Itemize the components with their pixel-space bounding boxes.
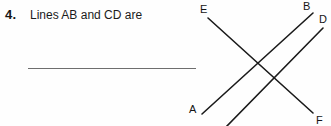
- point-label-d: D: [319, 14, 327, 25]
- geometry-figure: E B D A F: [0, 0, 331, 126]
- point-label-a: A: [189, 104, 196, 115]
- line-CD-segment: [226, 28, 323, 126]
- point-label-e: E: [200, 4, 207, 15]
- worksheet-question-page: 4. Lines AB and CD are E B D A F: [0, 0, 331, 126]
- line-EF-segment: [208, 18, 313, 113]
- geometry-figure-svg: [0, 0, 331, 126]
- point-label-f: F: [316, 115, 323, 126]
- point-label-b: B: [303, 1, 310, 12]
